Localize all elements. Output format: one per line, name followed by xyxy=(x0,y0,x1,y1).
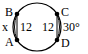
label-a: A xyxy=(5,35,14,49)
label-12-left: 12 xyxy=(20,20,32,34)
circle-diagram: B A x 12 12 C D 30° xyxy=(0,0,88,54)
label-c: C xyxy=(61,5,69,19)
point-b xyxy=(15,12,20,17)
label-d: D xyxy=(61,36,70,50)
label-x: x xyxy=(2,20,8,34)
point-d xyxy=(55,38,60,43)
point-a xyxy=(15,38,20,43)
label-12-right: 12 xyxy=(42,20,54,34)
label-b: B xyxy=(5,5,13,19)
label-angle: 30° xyxy=(63,20,80,34)
point-c xyxy=(55,12,60,17)
